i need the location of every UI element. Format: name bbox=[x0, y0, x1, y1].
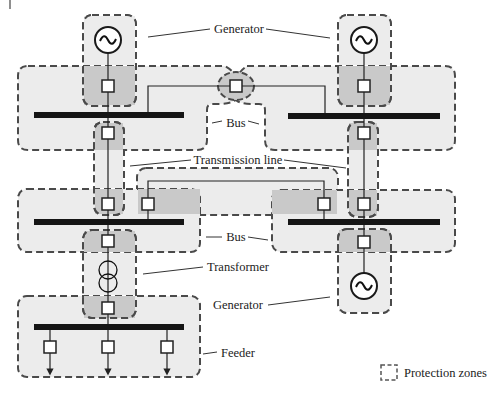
label-bus-top: Bus bbox=[226, 116, 246, 130]
label-transformer: Transformer bbox=[207, 260, 270, 274]
bus-bar-lower-right bbox=[288, 219, 440, 225]
zone-fill bbox=[95, 150, 123, 188]
label-generator-top: Generator bbox=[214, 22, 265, 36]
protection-zone-legend-icon bbox=[381, 365, 397, 380]
label-feeder: Feeder bbox=[221, 346, 256, 360]
legend-label: Protection zones bbox=[404, 366, 487, 380]
label-bus-bottom: Bus bbox=[226, 230, 246, 244]
generator-icon bbox=[351, 27, 377, 53]
bus-bar-upper-right bbox=[288, 113, 440, 119]
generator-icon bbox=[351, 273, 377, 299]
generator-icon bbox=[95, 27, 121, 53]
label-generator-bottom: Generator bbox=[213, 298, 264, 312]
protection-zone-diagram: Generator Bus Transmission line Bus Tran… bbox=[0, 0, 489, 395]
legend: Protection zones bbox=[381, 365, 487, 380]
label-transmission-line: Transmission line bbox=[194, 153, 283, 167]
bus-bar-upper-left bbox=[34, 112, 184, 118]
bus-bar-lower-left bbox=[34, 219, 184, 225]
zone-fill bbox=[349, 150, 377, 189]
bus-bar-feeder bbox=[34, 324, 184, 330]
